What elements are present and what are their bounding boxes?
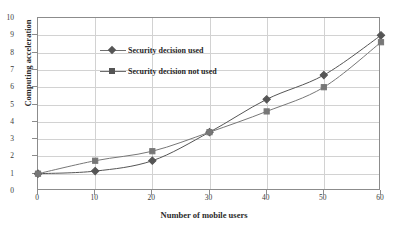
data-point-square-icon [321, 85, 326, 90]
legend-label: Security decision not used [128, 67, 217, 76]
data-series-layer [38, 18, 381, 191]
y-tick-label: 7 [0, 64, 14, 73]
legend-item-security-decision-used: Security decision used [100, 45, 217, 56]
legend-marker-square-icon [100, 66, 126, 77]
x-tick-mark [37, 190, 38, 195]
x-axis-title: Number of mobile users [28, 210, 380, 220]
x-tick-mark [151, 190, 152, 195]
data-point-square-icon [35, 171, 40, 176]
data-point-diamond-icon [263, 96, 270, 103]
y-tick-label: 1 [0, 168, 14, 177]
data-point-diamond-icon [149, 157, 156, 164]
data-point-square-icon [207, 130, 212, 135]
data-point-square-icon [378, 40, 383, 45]
x-tick-mark [323, 190, 324, 195]
data-point-square-icon [93, 158, 98, 163]
legend-label: Security decision used [128, 46, 204, 55]
legend-item-security-decision-not-used: Security decision not used [100, 66, 217, 77]
data-point-square-icon [150, 149, 155, 154]
legend-marker-diamond-icon [100, 45, 126, 56]
chart-legend: Security decision used Security decision… [100, 45, 217, 77]
y-tick-label: 5 [0, 99, 14, 108]
y-tick-label: 9 [0, 30, 14, 39]
x-tick-mark [209, 190, 210, 195]
data-point-diamond-icon [320, 71, 327, 78]
y-tick-label: 3 [0, 134, 14, 143]
data-point-square-icon [264, 109, 269, 114]
x-tick-mark [380, 190, 381, 195]
chart-figure: Computing acceleration 012345678910 Secu… [0, 0, 398, 231]
y-tick-label: 0 [0, 186, 14, 195]
data-point-diamond-icon [91, 167, 98, 174]
x-tick-mark [94, 190, 95, 195]
y-tick-label: 10 [0, 13, 14, 22]
y-tick-label: 4 [0, 116, 14, 125]
plot-area: Security decision used Security decision… [37, 17, 380, 190]
y-tick-label: 6 [0, 82, 14, 91]
x-tick-mark [266, 190, 267, 195]
y-tick-label: 2 [0, 151, 14, 160]
y-tick-label: 8 [0, 47, 14, 56]
data-point-diamond-icon [377, 32, 384, 39]
